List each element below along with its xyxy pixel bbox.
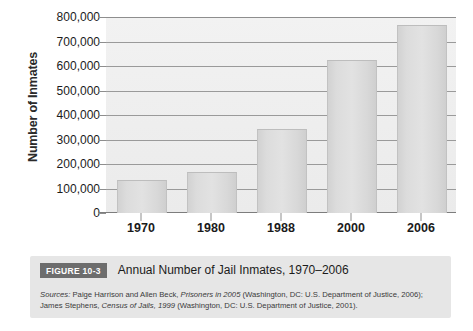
y-axis-tick <box>98 140 106 141</box>
x-axis-tick-label: 1980 <box>197 221 225 235</box>
x-axis-ticks <box>106 213 456 221</box>
x-axis-tick <box>211 213 212 221</box>
y-axis-tick-label: 300,000 <box>57 133 100 147</box>
bar-1970 <box>117 180 167 213</box>
y-axis-tick-label: 500,000 <box>57 84 100 98</box>
y-axis-tick <box>98 164 106 165</box>
figure-title: Annual Number of Jail Inmates, 1970–2006 <box>118 263 349 277</box>
y-axis-tick <box>98 17 106 18</box>
x-axis-tick <box>351 213 352 221</box>
y-axis-tick-labels: 0100,000200,000300,000400,000500,000600,… <box>38 10 100 218</box>
caption-title-row: FIGURE 10-3 Annual Number of Jail Inmate… <box>40 263 349 278</box>
x-axis-tick-label: 1988 <box>267 221 295 235</box>
figure-caption-box: FIGURE 10-3 Annual Number of Jail Inmate… <box>30 256 451 318</box>
bar-1988 <box>257 129 307 213</box>
y-axis-tick-label: 800,000 <box>57 10 100 24</box>
plot-area <box>106 17 456 213</box>
y-axis-tick <box>98 66 106 67</box>
bar-chart: Number of Inmates 0100,000200,000300,000… <box>0 0 473 250</box>
figure-sources: Sources: Paige Harrison and Allen Beck, … <box>40 289 441 311</box>
source-title-1: Prisoners in 2005 <box>181 290 241 299</box>
y-axis-tick-label: 200,000 <box>57 157 100 171</box>
source-title-2: Census of Jails, 1999 <box>102 301 176 310</box>
y-axis-tick-label: 400,000 <box>57 108 100 122</box>
y-axis-tick <box>98 189 106 190</box>
bar-1980 <box>187 172 237 213</box>
bar-2006 <box>397 25 447 213</box>
y-axis-tick <box>98 91 106 92</box>
x-axis-tick-label: 2000 <box>337 221 365 235</box>
y-axis-tick-label: 700,000 <box>57 35 100 49</box>
y-axis-tick <box>98 115 106 116</box>
x-axis-tick-labels: 19701980198820002006 <box>106 221 456 241</box>
x-axis-tick-label: 1970 <box>127 221 155 235</box>
x-axis-tick <box>141 213 142 221</box>
gridline <box>106 17 456 18</box>
y-axis-tick-label: 600,000 <box>57 59 100 73</box>
y-axis-tick <box>98 213 106 214</box>
x-axis-tick <box>421 213 422 221</box>
x-axis-tick-label: 2006 <box>407 221 435 235</box>
sources-label: Sources: <box>40 290 70 299</box>
x-axis-tick <box>281 213 282 221</box>
y-axis-tick-label: 100,000 <box>57 182 100 196</box>
y-axis-tick <box>98 42 106 43</box>
figure-number-badge: FIGURE 10-3 <box>40 263 107 278</box>
bar-2000 <box>327 60 377 213</box>
